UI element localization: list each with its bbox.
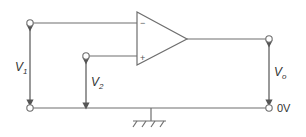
opamp-circuit-diagram: − + V1 V2 Vo 0V [0,0,306,137]
noninverting-sign: + [140,53,145,63]
ground-icon [133,108,166,127]
zero-volt-label: 0V [277,102,291,114]
vo-terminal [266,36,272,42]
v1-label: V1 [15,60,27,76]
v1-ground-terminal [27,105,33,111]
vo-label: Vo [274,65,287,81]
inverting-sign: − [140,18,145,28]
v2-label: V2 [91,75,104,91]
v1-terminal [27,20,33,26]
circuit-canvas: − + V1 V2 Vo 0V [0,0,306,137]
zero-volt-terminal [266,105,272,111]
v2-terminal [83,53,89,59]
